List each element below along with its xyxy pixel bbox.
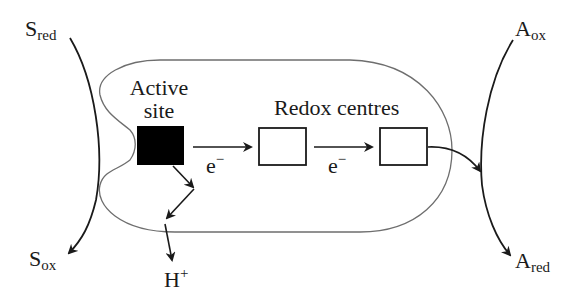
acceptor-oxidized-label: Aox: [515, 18, 546, 43]
active-site-square: [137, 126, 184, 165]
acceptor-arc-arrow: [481, 40, 513, 255]
redox-centre-box-1: [259, 128, 306, 165]
redox-centres-label: Redox centres: [274, 97, 399, 119]
electron-label-2: e−: [328, 152, 346, 177]
redox-centre-box-2: [380, 128, 427, 165]
proton-arrow-1: [173, 166, 193, 187]
proton-arrow-3: [165, 224, 172, 260]
substrate-oxidized-label: Sox: [29, 248, 56, 273]
proton-arrow-2: [167, 189, 194, 218]
active-site-label-line1: Active: [118, 76, 200, 99]
electron-to-acceptor-arrow: [428, 147, 480, 171]
proton-label: H+: [164, 266, 188, 291]
active-site-label-line2: site: [118, 99, 200, 122]
active-site-label: Active site: [118, 76, 200, 122]
acceptor-reduced-label: Ared: [515, 250, 550, 275]
electron-label-1: e−: [206, 152, 224, 177]
substrate-arc-arrow: [69, 38, 99, 253]
substrate-reduced-label: Sred: [25, 18, 56, 43]
enzyme-electron-transfer-diagram: Sred Sox Aox Ared Active site Redox cent…: [0, 0, 580, 295]
diagram-graphics: [0, 0, 580, 295]
